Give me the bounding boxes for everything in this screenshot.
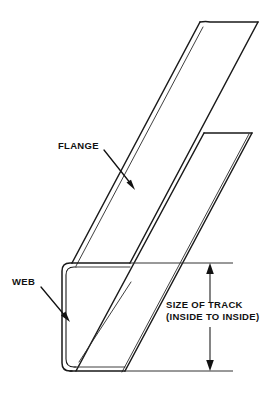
lower-flange-thickness-diagonal: [122, 134, 249, 372]
web-label: WEB: [12, 276, 35, 287]
lower-flange-right-diagonal-edge: [125, 133, 252, 371]
track-section-diagram: FLANGE WEB SIZE OF TRACK (INSIDE TO INSI…: [0, 0, 280, 403]
upper-flange-right-diagonal-edge: [130, 22, 258, 263]
dimension-label: SIZE OF TRACK (INSIDE TO INSIDE): [166, 299, 259, 322]
web-interior-fold-diagonal: [79, 282, 131, 362]
dimension-label-line-2: (INSIDE TO INSIDE): [166, 311, 259, 323]
upper-flange-far-top-edge: [200, 22, 258, 23]
dimension-label-line-1: SIZE OF TRACK: [166, 299, 259, 311]
flange-leader-arrow-icon: [127, 180, 136, 190]
flange-label: FLANGE: [58, 140, 99, 151]
lower-flange-left-diagonal-edge: [76, 133, 204, 371]
dimension-arrow-up-icon: [206, 263, 214, 274]
diagram-canvas: [0, 0, 280, 403]
dimension-arrow-down-icon: [206, 360, 214, 371]
